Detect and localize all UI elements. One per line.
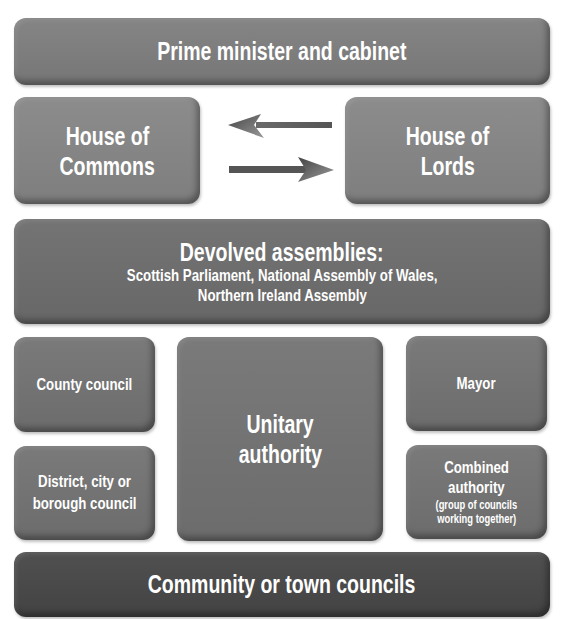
prime-minister-cabinet-label: Prime minister and cabinet: [157, 37, 406, 66]
unitary-authority-line2: authority: [238, 439, 321, 469]
prime-minister-cabinet-box: Prime minister and cabinet: [14, 18, 550, 85]
house-of-lords-line2: Lords: [420, 151, 474, 181]
arrow-right-icon: [226, 154, 336, 184]
county-council-label: County council: [37, 375, 133, 395]
unitary-authority-box: Unitary authority: [177, 337, 383, 541]
mayor-label: Mayor: [457, 374, 496, 394]
district-council-line2: borough council: [33, 493, 137, 515]
house-of-commons-box: House of Commons: [14, 97, 200, 204]
house-of-commons-line1: House of: [65, 121, 148, 151]
house-of-lords-line1: House of: [406, 121, 489, 151]
community-councils-box: Community or town councils: [14, 552, 550, 617]
community-councils-label: Community or town councils: [148, 570, 416, 599]
county-council-box: County council: [14, 337, 155, 432]
district-council-line1: District, city or: [38, 471, 131, 493]
district-council-box: District, city or borough council: [14, 446, 155, 540]
house-of-commons-line2: Commons: [59, 151, 154, 181]
house-of-lords-box: House of Lords: [345, 97, 550, 204]
combined-authority-note2: working together): [437, 512, 516, 526]
devolved-assemblies-line2: Northern Ireland Assembly: [198, 286, 367, 306]
devolved-assemblies-box: Devolved assemblies: Scottish Parliament…: [14, 219, 550, 324]
combined-authority-box: Combined authority (group of councils wo…: [406, 445, 547, 539]
devolved-assemblies-line1: Scottish Parliament, National Assembly o…: [127, 266, 438, 286]
combined-authority-line2: authority: [448, 478, 505, 498]
combined-authority-note1: (group of councils: [436, 498, 518, 512]
unitary-authority-line1: Unitary: [246, 409, 313, 439]
combined-authority-line1: Combined: [444, 458, 509, 478]
arrow-left-icon: [226, 112, 336, 142]
devolved-assemblies-heading: Devolved assemblies:: [180, 238, 384, 266]
mayor-box: Mayor: [406, 336, 547, 431]
